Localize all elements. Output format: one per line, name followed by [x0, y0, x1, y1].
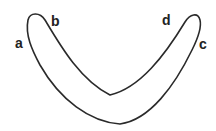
label-d: d [162, 13, 171, 27]
label-b: b [51, 14, 60, 28]
label-a: a [15, 36, 23, 50]
u-shape-outline [27, 14, 200, 124]
label-c: c [199, 37, 207, 51]
u-shape-diagram [0, 0, 216, 131]
